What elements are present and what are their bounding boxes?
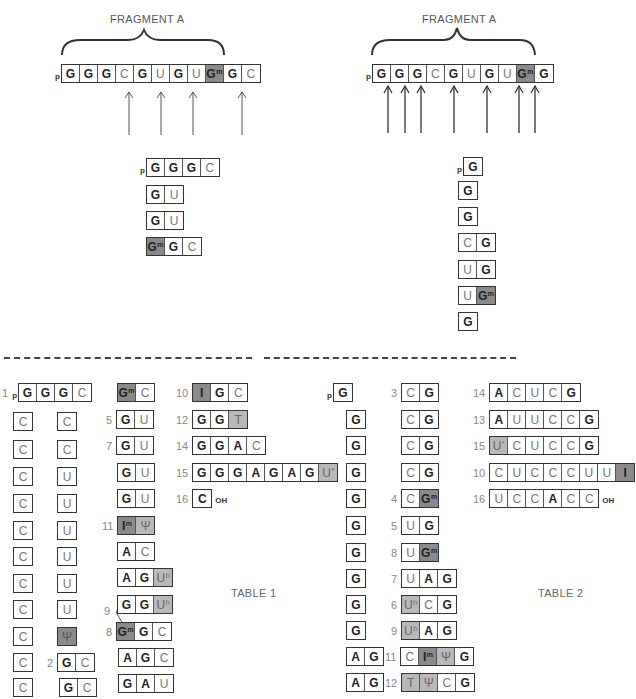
left-product-1: p GGGC [140,158,220,177]
left-product-4: GmGC [146,237,202,256]
t1-row: C [13,574,33,593]
left-product-2: GU [146,185,184,204]
t2-row: G [346,516,366,535]
t2-row: CG [401,436,439,455]
left-fragment-sequence: p G G G C G U G U Gm G C [55,64,261,83]
t2-row: 15U*CUCCG [473,436,599,455]
t2-row: G [346,543,366,562]
right-product-1: pG [457,157,483,176]
nucleotide: U [499,65,517,82]
t2-row: AG [346,647,384,666]
t1-row: U [57,521,77,540]
t1-row: 8GmGC [106,622,172,641]
t1-row: GGUh [117,595,173,614]
nucleotide: G [445,65,463,82]
t2-row: 7UAG [391,569,457,588]
t1-row: C [13,600,33,619]
t1-row: C [13,678,33,697]
nucleotide: C [116,65,134,82]
t1-row: AGC [118,648,174,667]
t1-row: C [13,627,33,646]
t1-row: GAU [118,674,174,693]
t1-row: C [57,440,77,459]
nucleotide: U [188,65,206,82]
t1-row: C [13,440,33,459]
nucleotide: G [98,65,116,82]
t1-row: GU [117,489,155,508]
t1-row: AC [117,542,155,561]
t1-row: GU [117,463,155,482]
t2-row: G [346,569,366,588]
right-product-3: G [458,207,478,226]
nucleotide: C [242,65,260,82]
t1-row: 12GGT [176,410,248,429]
t2-row: 5UG [391,516,439,535]
t1-row: 11ImΨ [102,516,155,535]
t1-row: U [57,574,77,593]
t2-row: G [346,463,366,482]
nucleotide: G [134,65,152,82]
t2-row: G [346,489,366,508]
t2-row: G [346,621,366,640]
nucleotide-modified: Gm [206,65,224,82]
t1-row: C [57,412,77,431]
right-product-5: UG [458,260,496,279]
t2-row: AG [346,673,384,692]
t2-row: 9UhAG [391,621,457,640]
t2-row: 13AUUCCG [473,410,599,429]
nucleotide: C [427,65,445,82]
nucleotide: G [62,65,80,82]
t2-row: pG [327,383,353,402]
t1-row: C [13,547,33,566]
t1-row: U [57,547,77,566]
nucleotide: G [535,65,553,82]
t1-row-number: 9 [104,605,110,617]
t2-row: CG [401,410,439,429]
t2-row: 16UCCACCOH [473,489,614,508]
t1-row: C [13,494,33,513]
right-product-6: UGm [458,286,496,305]
t1-row: AGUh [117,568,173,587]
t1-row: GmC [117,383,155,402]
nucleotide: G [170,65,188,82]
right-fragment-sequence: p G G G C G U G U Gm G [366,64,554,83]
left-product-3: GU [146,211,184,230]
divider-right [264,357,516,359]
t1-row: 2GC [47,653,95,672]
t2-row: 6UhCG [391,595,457,614]
t1-row: GC [59,678,97,697]
right-product-4: CG [458,233,496,252]
t1-row: 15GGGAGAGU* [176,463,338,482]
t1-row: U [57,494,77,513]
nucleotide: G [391,65,409,82]
t1-row: 16COH [176,489,227,508]
t1-row: 14GGAC [176,436,266,455]
table1-label: TABLE 1 [231,587,276,599]
phosphate-label: p [366,72,371,81]
t2-row: 3CG [391,383,439,402]
t1-row: C [13,521,33,540]
t1-row: 5GU [106,410,154,429]
phosphate-label: p [55,72,60,81]
nucleotide: U [463,65,481,82]
t1-row: U [57,600,77,619]
right-product-2: G [458,181,478,200]
t1-row: 10IGC [176,383,248,402]
t1-row: 1pGGGC [2,383,92,402]
nucleotide: G [481,65,499,82]
table2-label: TABLE 2 [538,587,583,599]
nucleotide: G [409,65,427,82]
nucleotide: U [152,65,170,82]
nucleotide-modified: Gm [517,65,535,82]
t1-row: C [13,412,33,431]
t1-row: C [13,467,33,486]
right-product-7: G [458,312,478,331]
t1-row: U [57,467,77,486]
t2-row: 8UGm [391,543,439,562]
t2-row: 4CGm [391,489,439,508]
t1-row: C [13,653,33,672]
t2-row: 10CUCCCUUI [473,463,635,482]
divider-left [4,357,252,359]
t2-row: 12TΨCG [385,673,475,692]
t2-row: G [346,436,366,455]
